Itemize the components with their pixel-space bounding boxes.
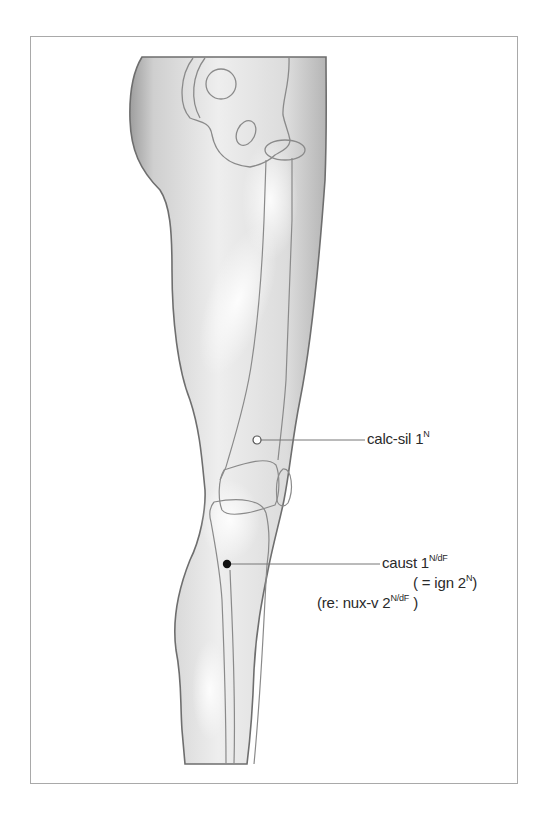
caust-label-text: caust 1 — [382, 554, 429, 571]
leg-illustration — [0, 0, 549, 814]
calc-sil-label-sup: N — [423, 429, 429, 439]
caust-label: caust 1N/dF — [382, 554, 448, 571]
calc-sil-point-marker — [253, 436, 261, 444]
nux-v-note-close: ) — [409, 594, 418, 611]
ign-note-close: ) — [472, 574, 477, 591]
nux-v-note-text: (re: nux-v 2 — [317, 594, 390, 611]
calc-sil-label: calc-sil 1N — [367, 430, 430, 447]
caust-point-marker — [223, 560, 231, 568]
calc-sil-label-text: calc-sil 1 — [367, 430, 423, 447]
ign-note: ( = ign 2N) — [355, 574, 477, 591]
leg-outline — [130, 57, 326, 764]
caust-label-sup: N/dF — [429, 553, 448, 563]
nux-v-note: (re: nux-v 2N/dF ) — [317, 594, 418, 611]
nux-v-note-sup: N/dF — [390, 593, 409, 603]
ign-note-text: ( = ign 2 — [413, 574, 466, 591]
